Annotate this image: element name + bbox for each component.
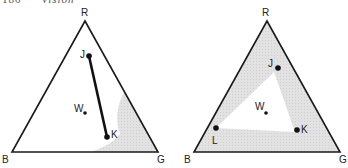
- color-triangle-figure: R B G J K W R B G J K L W: [0, 0, 348, 168]
- point-w: [83, 111, 87, 115]
- vertex-g-label: G: [157, 154, 165, 165]
- point-k-label: K: [111, 129, 118, 140]
- point-l-label: L: [212, 135, 218, 146]
- right-diagram: R B G J K L W: [184, 7, 347, 165]
- point-w-label: W: [255, 101, 265, 112]
- point-w-label: W: [74, 103, 84, 114]
- vertex-r-label: R: [262, 7, 269, 18]
- point-k-label: K: [301, 124, 308, 135]
- point-l: [213, 125, 219, 131]
- left-diagram: R B G J K W: [2, 7, 165, 165]
- point-k: [294, 127, 300, 133]
- vertex-b-label: B: [2, 154, 9, 165]
- point-j: [275, 65, 281, 71]
- gamut-shaded-region: [194, 21, 340, 152]
- vertex-g-label: G: [339, 154, 347, 165]
- jk-mixture-line: [89, 56, 107, 137]
- point-j-label: J: [268, 58, 273, 69]
- point-j-label: J: [80, 49, 85, 60]
- vertex-b-label: B: [184, 154, 191, 165]
- point-j: [86, 53, 92, 59]
- point-w: [264, 111, 268, 115]
- vertex-r-label: R: [81, 7, 88, 18]
- point-k: [104, 134, 110, 140]
